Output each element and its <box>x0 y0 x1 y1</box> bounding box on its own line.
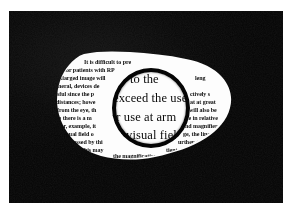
page-right-fragment-4: will also be <box>189 107 217 113</box>
page-line-4: neral, devices de <box>58 83 99 89</box>
page-line-2: for patients with RP <box>64 67 115 73</box>
page-line-9: For, example, it <box>57 123 96 129</box>
lens-glass: to the exceed the use or use at arm t's … <box>112 68 190 148</box>
page-right-fragment-3: at at great <box>190 99 216 105</box>
page-line-3: nlarged image will <box>59 75 105 81</box>
page-line-11: passed by thi <box>70 139 103 145</box>
lens-line-1: to the <box>130 73 159 86</box>
page-line-10: visual field o <box>62 131 94 137</box>
lens-line-2: exceed the use <box>113 92 187 105</box>
page-line-6: distances; howe <box>56 99 95 105</box>
screenshot-root: It is difficult to pre for patients with… <box>0 0 292 216</box>
page-right-fragment-5: ce in relative <box>186 115 218 121</box>
page-right-fragment-1: leng <box>195 75 205 81</box>
page-line-1: It is difficult to pre <box>84 59 131 65</box>
magnifier-lens[interactable]: to the exceed the use or use at arm t's … <box>112 68 190 148</box>
lens-line-4: t's visual fiel <box>112 129 177 142</box>
paper-layer: It is difficult to pre for patients with… <box>9 11 283 203</box>
page-line-7: from the eye, th <box>57 107 96 113</box>
page-line-8: ce there is a m <box>56 115 92 121</box>
page-line-5: sful since the p <box>57 91 94 97</box>
photo-background: It is difficult to pre for patients with… <box>9 11 283 203</box>
page-right-fragment-2: ctively s <box>190 91 210 97</box>
lens-line-3: or use at arm <box>112 111 176 124</box>
